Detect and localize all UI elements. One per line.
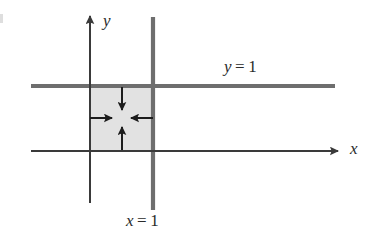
label-y-equals-1-operator: =: [232, 57, 248, 76]
label-x-equals-1-operator: =: [134, 211, 150, 230]
phase-plane-diagram: [0, 0, 373, 243]
label-x-equals-1-variable: x: [126, 211, 134, 230]
label-y-equals-1-value: 1: [248, 57, 257, 76]
label-y-equals-1: y=1: [224, 58, 257, 75]
figure-container: y x y=1 x=1: [0, 0, 373, 243]
x-axis-label: x: [350, 140, 358, 157]
y-axis-label: y: [103, 12, 111, 29]
label-y-equals-1-variable: y: [224, 57, 232, 76]
label-x-equals-1-value: 1: [150, 211, 159, 230]
label-x-equals-1: x=1: [126, 212, 159, 229]
